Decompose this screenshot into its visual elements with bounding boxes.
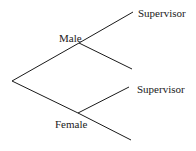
- label-female-supervisor: Supervisor: [137, 84, 185, 95]
- label-male-supervisor: Supervisor: [138, 8, 186, 19]
- branch-root-male: [12, 43, 79, 81]
- branch-root-female: [12, 81, 78, 113]
- branch-male-supervisor: [79, 12, 133, 43]
- tree-diagram: [0, 0, 196, 151]
- label-male: Male: [59, 33, 82, 44]
- branch-male-other: [79, 43, 132, 69]
- branch-female-supervisor: [78, 87, 129, 113]
- label-female: Female: [55, 119, 87, 130]
